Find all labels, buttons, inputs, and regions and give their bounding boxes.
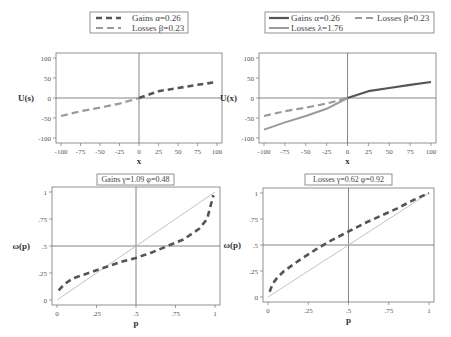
y-tick-label: -100 <box>38 135 51 143</box>
x-tick-label: .5 <box>133 310 139 318</box>
y-tick-label: 1 <box>44 189 48 197</box>
x-tick-label: 25 <box>155 148 163 156</box>
y-tick-label: 50 <box>44 75 52 83</box>
x-axis-label: p <box>346 315 351 325</box>
y-tick-label: -50 <box>42 115 52 123</box>
chart-subtitle: Gains γ=1.09 φ=0.48 <box>102 175 170 184</box>
y-tick-label: -100 <box>241 135 254 143</box>
x-tick-label: 100 <box>426 148 437 156</box>
y-axis-label: ω(p) <box>223 240 241 250</box>
series-line <box>139 82 217 98</box>
figure-canvas: -100-75-50-250255075100100500-50-100xU(s… <box>0 0 451 337</box>
x-tick-label: -75 <box>76 148 86 156</box>
y-axis-label: U(x) <box>220 93 237 103</box>
x-tick-label: 0 <box>137 148 141 156</box>
x-tick-label: 0 <box>55 310 59 318</box>
x-tick-label: 1 <box>427 307 431 315</box>
series-line <box>61 98 139 116</box>
x-tick-label: 75 <box>194 148 202 156</box>
legend-label: Losses λ=1.76 <box>291 23 343 33</box>
x-tick-label: .25 <box>304 307 313 315</box>
y-tick-label: 0 <box>251 95 255 103</box>
y-tick-label: 0 <box>255 294 259 302</box>
x-tick-label: 100 <box>212 148 223 156</box>
series-line <box>264 98 348 116</box>
y-tick-label: .75 <box>249 216 258 224</box>
x-axis-label: x <box>345 156 350 166</box>
x-tick-label: -100 <box>55 148 68 156</box>
y-tick-label: 50 <box>247 75 255 83</box>
x-tick-label: 25 <box>365 148 373 156</box>
x-tick-label: .75 <box>171 310 180 318</box>
chart-subtitle: Losses γ=0.62 φ=0.92 <box>313 175 384 184</box>
y-tick-label: .5 <box>253 242 259 250</box>
x-tick-label: 50 <box>175 148 183 156</box>
x-axis-label: x <box>137 156 142 166</box>
x-tick-label: -50 <box>95 148 105 156</box>
y-tick-label: 100 <box>41 55 52 63</box>
x-tick-label: 0 <box>346 148 350 156</box>
x-tick-label: .75 <box>384 307 393 315</box>
chart-weighting-losses: 0.25.5.7511.75.5.250pω(p)Losses γ=0.62 φ… <box>223 174 434 325</box>
chart-value-loss-aversion: -100-75-50-250255075100100500-50-100xU(x… <box>220 12 437 166</box>
x-tick-label: .25 <box>92 310 101 318</box>
y-axis-label: U(s) <box>18 93 34 103</box>
x-tick-label: -50 <box>301 148 311 156</box>
x-tick-label: 50 <box>386 148 394 156</box>
y-tick-label: .25 <box>38 270 47 278</box>
x-axis-label: p <box>133 318 138 328</box>
chart-weighting-gains: 0.25.5.7511.75.5.250pω(p)Gains γ=1.09 φ=… <box>12 174 220 328</box>
y-tick-label: 100 <box>244 55 255 63</box>
y-tick-label: -50 <box>245 115 255 123</box>
x-tick-label: -100 <box>258 148 271 156</box>
series-line <box>270 193 429 292</box>
y-tick-label: 0 <box>48 95 52 103</box>
y-tick-label: 1 <box>255 190 259 198</box>
legend-label: Losses β=0.23 <box>132 23 185 33</box>
x-tick-label: -25 <box>322 148 332 156</box>
x-tick-label: 1 <box>213 310 217 318</box>
series-line <box>348 82 432 98</box>
legend-label: Gains α=0.26 <box>291 13 340 23</box>
legend-label: Gains α=0.26 <box>132 13 181 23</box>
x-tick-label: -75 <box>280 148 290 156</box>
y-axis-label: ω(p) <box>12 241 30 251</box>
x-tick-label: 75 <box>407 148 415 156</box>
y-tick-label: 0 <box>44 297 48 305</box>
x-tick-label: -25 <box>115 148 125 156</box>
chart-value-gains-losses: -100-75-50-250255075100100500-50-100xU(s… <box>18 12 223 166</box>
x-tick-label: .5 <box>346 307 352 315</box>
y-tick-label: .75 <box>38 216 47 224</box>
y-tick-label: .25 <box>249 268 258 276</box>
y-tick-label: .5 <box>42 243 48 251</box>
x-tick-label: 0 <box>266 307 270 315</box>
legend-label: Losses β=0.23 <box>377 13 430 23</box>
